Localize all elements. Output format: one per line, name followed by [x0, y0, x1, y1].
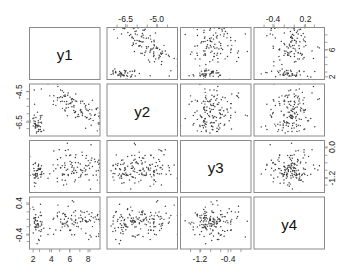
axis-tick-label-bottom: 4 [49, 254, 54, 264]
panel-frame [107, 141, 178, 193]
axis-tick-label-left: -4.5 [14, 84, 24, 99]
axis-tick-label-top: -5.0 [149, 14, 164, 24]
diagonal-variable-label: y3 [208, 159, 224, 176]
scatter-panel-y1-vs-y4 [254, 27, 325, 80]
diagonal-panel-y3: y3 [181, 141, 252, 193]
diagonal-variable-label: y1 [57, 46, 73, 63]
scatter-panel-y2-vs-y4 [254, 83, 325, 136]
axis-tick-label-bottom: 8 [86, 254, 91, 264]
scatter-panel-y3-vs-y1 [29, 141, 101, 194]
axis-tick-label-bottom: 6 [67, 254, 72, 264]
axis-tick-label-left: -0.4 [14, 227, 24, 242]
diagonal-variable-label: y2 [134, 103, 150, 120]
scatter-panel-y3-vs-y4 [254, 141, 325, 194]
axis-tick-label-left: -6.5 [14, 115, 24, 130]
axis-tick-label-top: -0.4 [266, 14, 281, 24]
scatter-panel-y2-vs-y3 [180, 83, 251, 136]
diagonal-panel-y2: y2 [107, 84, 178, 136]
scatter-panel-y4-vs-y1 [29, 197, 101, 249]
axis-tick-label-top: 0.2 [300, 14, 312, 24]
diagonal-panel-y1: y1 [30, 28, 101, 80]
diagonal-variable-label: y4 [281, 216, 297, 233]
panel-frame [181, 28, 252, 80]
axis-tick-label-top: -6.5 [118, 14, 133, 24]
scatter-panel-y2-vs-y1 [29, 83, 101, 136]
pairs-plot-canvas: y1y2y3y4-6.5-5.0-0.40.22468-1.2-0.4-4.5-… [0, 0, 353, 280]
panel-frame [254, 84, 325, 136]
panel-frame [107, 197, 178, 249]
scatter-panel-y4-vs-y3 [180, 197, 251, 249]
scatter-panel-y1-vs-y3 [180, 27, 251, 80]
scatter-panel-y3-vs-y2 [107, 141, 178, 194]
scatterplot-matrix-figure: y1y2y3y4-6.5-5.0-0.40.22468-1.2-0.4-4.5-… [0, 0, 353, 280]
axis-tick-label-bottom: -1.2 [193, 254, 208, 264]
panel-frame [181, 84, 252, 136]
axis-tick-label-left: 0.4 [14, 197, 24, 209]
scatter-panel-y4-vs-y2 [107, 197, 178, 249]
diagonal-panel-y4: y4 [254, 197, 325, 249]
axis-tick-label-bottom: -0.4 [221, 254, 236, 264]
axis-tick-label-bottom: 2 [31, 254, 36, 264]
panel-frame [30, 141, 101, 193]
scatter-panel-y1-vs-y2 [107, 27, 178, 80]
panel-frame [181, 197, 252, 249]
